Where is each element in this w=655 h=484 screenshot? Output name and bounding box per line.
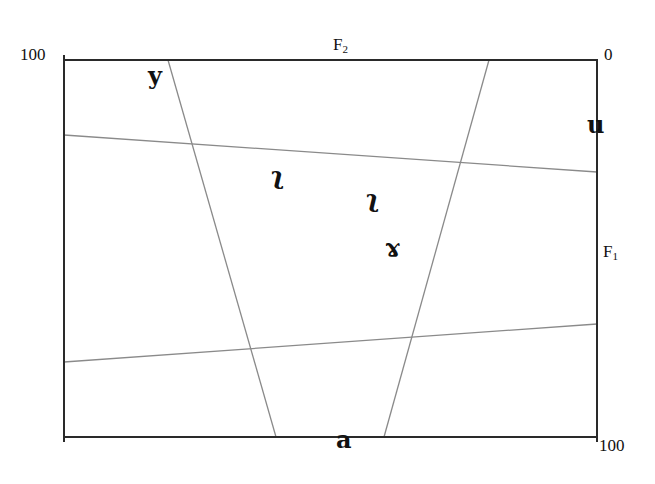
- vowel-label-u: u: [587, 113, 604, 137]
- upper-boundary-line: [64, 135, 597, 172]
- axis-label-f2-sub: 2: [342, 43, 348, 55]
- axis-label-f1-sub: 1: [612, 250, 618, 262]
- plot-frame: [64, 60, 597, 437]
- tick-label-bottom-right: 100: [599, 437, 625, 454]
- tick-label-top-left: 100: [20, 46, 46, 63]
- vowel-chart: [0, 0, 655, 484]
- lower-boundary-line: [64, 324, 597, 362]
- axis-label-f1: F1: [603, 243, 618, 262]
- left-slanted-line: [168, 60, 276, 437]
- vowel-label-retroflex-i-1: ʅ: [271, 164, 284, 188]
- vowel-label-y: y: [148, 64, 162, 88]
- axis-label-f2: F2: [333, 36, 348, 55]
- tick-label-top-right: 0: [604, 46, 613, 63]
- vowel-label-a: a: [336, 428, 352, 452]
- vowel-label-gamma: ɤ: [385, 236, 400, 260]
- vowel-label-retroflex-i-2: ʅ: [366, 187, 379, 211]
